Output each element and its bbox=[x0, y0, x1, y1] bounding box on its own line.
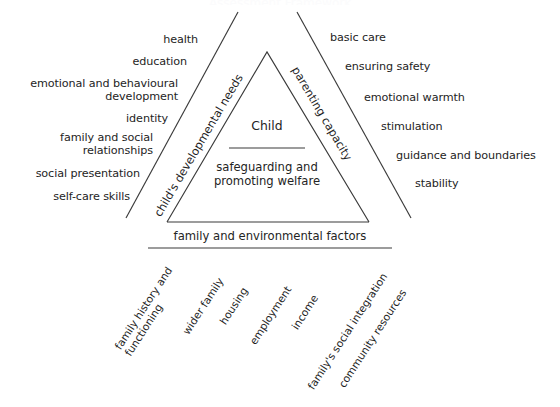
centre-safeguarding-label: safeguarding and promoting welfare bbox=[196, 160, 338, 188]
parenting-capacity-emotional-warmth: emotional warmth bbox=[364, 91, 465, 104]
developmental-need-self-care-skills: self-care skills bbox=[0, 190, 130, 203]
developmental-need-education: education bbox=[0, 55, 187, 68]
parenting-capacity-stability: stability bbox=[415, 177, 459, 190]
parenting-capacity-guidance-and-boundaries: guidance and boundaries bbox=[396, 149, 536, 162]
base-caption: family and environmental factors bbox=[150, 229, 390, 243]
parenting-capacity-ensuring-safety: ensuring safety bbox=[345, 60, 430, 73]
parenting-capacity-stimulation: stimulation bbox=[381, 120, 443, 133]
developmental-need-emotional-behavioural-development: emotional and behavioural development bbox=[0, 77, 178, 104]
developmental-need-health: health bbox=[0, 33, 198, 46]
parenting-capacity-basic-care: basic care bbox=[330, 31, 386, 44]
developmental-need-social-presentation: social presentation bbox=[0, 167, 140, 180]
developmental-need-family-social-relationships: family and social relationships bbox=[0, 131, 153, 158]
developmental-need-identity: identity bbox=[0, 112, 168, 125]
assessment-framework-diagram: Assessment Framework Child safeguarding … bbox=[0, 0, 560, 407]
centre-child-label: Child bbox=[228, 118, 306, 133]
